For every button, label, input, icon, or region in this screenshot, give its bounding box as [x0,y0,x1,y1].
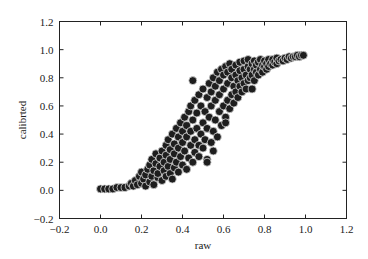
y-tick-label: 0.6 [40,100,54,112]
data-point [168,175,176,183]
x-tick-label: 0.2 [135,223,149,235]
y-tick-labels: −0.20.00.20.40.60.81.01.2 [34,16,54,225]
y-axis-label: calibrted [16,100,28,139]
data-point [213,133,221,141]
data-point [299,51,307,59]
data-point [211,116,219,124]
x-tick-label: 0.8 [258,223,272,235]
x-axis-label: raw [195,239,212,251]
y-tick-label: 1.0 [40,44,54,56]
data-point [199,85,207,93]
x-tick-label: 0.0 [94,223,108,235]
x-tick-label: 1.0 [299,223,313,235]
y-tick-label: 0.8 [40,72,54,84]
y-tick-label: 0.2 [40,156,54,168]
data-point [209,147,217,155]
y-tick-label: 0.4 [40,128,54,140]
x-tick-label: −0.2 [50,223,70,235]
data-point [199,144,207,152]
data-point [189,77,197,85]
x-tick-label: 0.4 [176,223,190,235]
y-tick-label: 1.2 [40,16,54,28]
x-tick-label: 1.2 [340,223,354,235]
y-tick-label: −0.2 [34,213,54,225]
x-tick-labels: −0.20.00.20.40.60.81.01.2 [50,223,354,235]
scatter-chart: −0.20.00.20.40.60.81.01.2 −0.20.00.20.40… [0,0,368,259]
data-points [97,51,308,193]
data-point [174,168,182,176]
data-point [248,85,256,93]
data-point [195,153,203,161]
data-point [207,139,215,147]
data-point [193,109,201,117]
y-tick-label: 0.0 [40,184,54,196]
x-tick-label: 0.6 [217,223,231,235]
data-point [222,119,230,127]
data-point [203,158,211,166]
data-point [183,165,191,173]
